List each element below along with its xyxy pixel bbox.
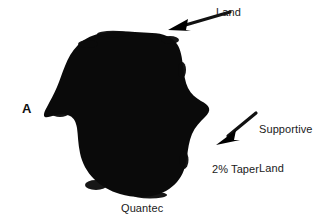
annotation-label-supportive-land: Supportive Land: [259, 97, 313, 201]
annotation-label-land: Land: [216, 6, 241, 19]
specimen-caption: Quantec: [121, 202, 163, 215]
annotation-label-taper: 2% Taper: [212, 163, 259, 176]
panel-letter: A: [22, 101, 32, 116]
annotation-label-supportive-land-line2: Land: [259, 162, 313, 175]
figure-panel-a: A Land Supportive Land 2% Taper Quantec: [0, 0, 329, 223]
annotation-label-supportive-land-line1: Supportive: [259, 123, 313, 136]
